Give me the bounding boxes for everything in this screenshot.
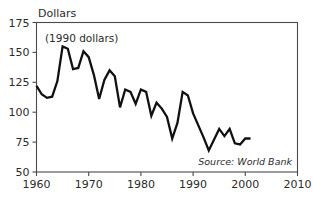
y-tick-label: 125 (9, 76, 30, 89)
y-axis-ticks: 5075100125150175 (9, 17, 37, 180)
units-annotation: (1990 dollars) (45, 32, 118, 44)
x-tick-label: 2010 (284, 178, 312, 191)
y-tick-label: 175 (9, 17, 30, 30)
line-chart: Dollars 5075100125150175 196019701980199… (0, 0, 314, 202)
data-series-line (37, 46, 251, 150)
x-axis-ticks: 196019701980199020002010 (23, 172, 312, 191)
plot-frame (37, 23, 298, 173)
x-tick-label: 1970 (75, 178, 103, 191)
y-tick-label: 75 (16, 136, 30, 149)
source-label: Source: World Bank (198, 156, 292, 167)
y-tick-label: 100 (9, 106, 30, 119)
series-group (37, 46, 251, 150)
chart-figure: Dollars 5075100125150175 196019701980199… (0, 0, 314, 202)
y-axis-title: Dollars (38, 7, 77, 20)
x-tick-label: 2000 (231, 178, 259, 191)
x-tick-label: 1980 (127, 178, 155, 191)
y-tick-label: 150 (9, 46, 30, 59)
x-tick-label: 1990 (179, 178, 207, 191)
x-tick-label: 1960 (23, 178, 51, 191)
